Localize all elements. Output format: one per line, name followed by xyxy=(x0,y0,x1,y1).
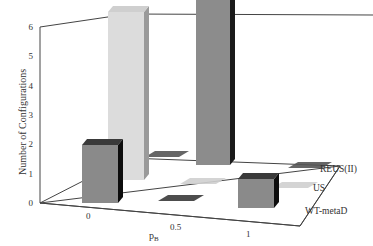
bar-reus-ii--0-5 xyxy=(196,0,235,165)
y-axis-title: Number of Configurations xyxy=(17,69,28,175)
bars xyxy=(82,0,332,208)
3d-bar-chart: 0123456 0 0.5 1 pB Number of Configurati… xyxy=(0,0,373,246)
y-tick-2: 2 xyxy=(29,139,34,149)
depth-label-reus: REUS(II) xyxy=(320,164,357,175)
y-tick-6: 6 xyxy=(29,22,34,32)
bar-reus-ii--0 xyxy=(145,151,189,157)
y-tick-4: 4 xyxy=(29,81,34,91)
y-tick-5: 5 xyxy=(29,51,34,61)
y-tick-3: 3 xyxy=(29,110,34,120)
y-axis-ticks: 0123456 xyxy=(29,22,34,208)
bar-us-0-5 xyxy=(180,178,226,184)
floor-right-edge xyxy=(300,166,340,226)
y-tick-1: 1 xyxy=(29,169,34,179)
depth-label-wt-metad: WT-metaD xyxy=(305,206,348,216)
x-axis-title: pB xyxy=(149,230,159,243)
x-axis-title-sub: B xyxy=(154,235,159,243)
bar-wt-metad-0 xyxy=(82,139,123,203)
bar-wt-metad-1 xyxy=(238,173,279,208)
x-tick-0-5: 0.5 xyxy=(170,222,182,232)
x-tick-0: 0 xyxy=(86,211,91,221)
bar-wt-metad-0-5 xyxy=(158,195,204,201)
y-tick-0: 0 xyxy=(29,198,34,208)
x-tick-1: 1 xyxy=(246,229,251,239)
depth-label-us: US xyxy=(313,183,325,193)
